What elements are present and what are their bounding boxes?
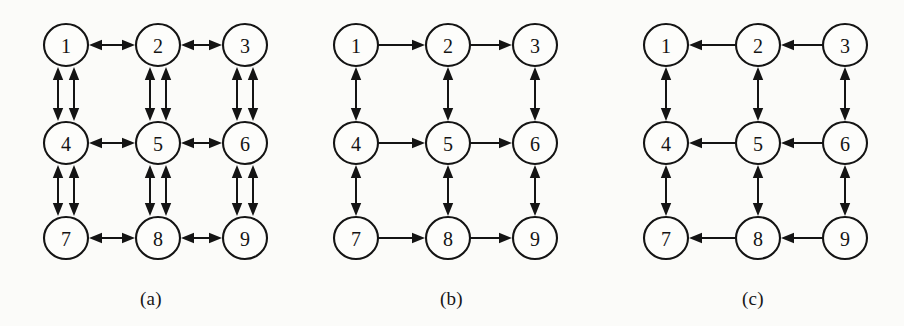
- node-label-2: 2: [443, 35, 453, 57]
- node-label-8: 8: [153, 228, 163, 250]
- node-6[interactable]: 6: [513, 122, 557, 164]
- edge-3-6: [232, 67, 258, 121]
- edge-5-6: [181, 138, 222, 148]
- edge-3-6: [530, 67, 540, 121]
- edge-8-9: [471, 233, 512, 243]
- node-label-3: 3: [840, 35, 850, 57]
- edge-6-9: [232, 165, 258, 216]
- panel-b: 123456789: [334, 24, 557, 259]
- node-label-1: 1: [661, 35, 671, 57]
- node-8[interactable]: 8: [136, 217, 180, 259]
- node-7[interactable]: 7: [334, 217, 378, 259]
- node-1[interactable]: 1: [334, 24, 378, 66]
- node-1[interactable]: 1: [44, 24, 88, 66]
- edge-8-7: [689, 233, 735, 243]
- node-4[interactable]: 4: [644, 122, 688, 164]
- edge-3-6: [840, 67, 850, 121]
- edge-2-1: [689, 40, 735, 50]
- node-5[interactable]: 5: [736, 122, 780, 164]
- node-label-1: 1: [351, 35, 361, 57]
- edge-7-8: [89, 233, 135, 243]
- caption-panel-c: (c): [0, 288, 904, 310]
- edge-2-5: [145, 67, 171, 121]
- panel-b-nodes: 123456789: [334, 24, 557, 259]
- edge-9-8: [781, 233, 822, 243]
- node-9[interactable]: 9: [223, 217, 267, 259]
- node-3[interactable]: 3: [223, 24, 267, 66]
- edge-6-9: [840, 165, 850, 216]
- node-1[interactable]: 1: [644, 24, 688, 66]
- edge-8-9: [181, 233, 222, 243]
- node-7[interactable]: 7: [644, 217, 688, 259]
- node-8[interactable]: 8: [426, 217, 470, 259]
- node-label-3: 3: [240, 35, 250, 57]
- edge-1-2: [379, 40, 425, 50]
- node-label-4: 4: [661, 133, 671, 155]
- node-label-4: 4: [351, 133, 361, 155]
- edge-5-8: [145, 165, 171, 216]
- edge-2-5: [443, 67, 453, 121]
- node-9[interactable]: 9: [513, 217, 557, 259]
- node-3[interactable]: 3: [513, 24, 557, 66]
- node-label-2: 2: [753, 35, 763, 57]
- panel-a-nodes: 123456789: [44, 24, 267, 259]
- node-label-6: 6: [840, 133, 850, 155]
- node-label-2: 2: [153, 35, 163, 57]
- node-label-9: 9: [840, 228, 850, 250]
- node-5[interactable]: 5: [136, 122, 180, 164]
- node-8[interactable]: 8: [736, 217, 780, 259]
- node-7[interactable]: 7: [44, 217, 88, 259]
- node-4[interactable]: 4: [44, 122, 88, 164]
- edge-6-5: [781, 138, 822, 148]
- edge-4-5: [379, 138, 425, 148]
- edge-2-3: [181, 40, 222, 50]
- edge-7-8: [379, 233, 425, 243]
- node-label-3: 3: [530, 35, 540, 57]
- panel-c: 123456789: [644, 24, 867, 259]
- node-label-4: 4: [61, 133, 71, 155]
- node-4[interactable]: 4: [334, 122, 378, 164]
- node-6[interactable]: 6: [823, 122, 867, 164]
- node-label-8: 8: [443, 228, 453, 250]
- edge-4-7: [53, 165, 79, 216]
- edge-5-6: [471, 138, 512, 148]
- figure-canvas: 123456789123456789123456789: [0, 0, 904, 326]
- node-9[interactable]: 9: [823, 217, 867, 259]
- node-label-6: 6: [530, 133, 540, 155]
- node-5[interactable]: 5: [426, 122, 470, 164]
- node-3[interactable]: 3: [823, 24, 867, 66]
- node-label-9: 9: [530, 228, 540, 250]
- node-2[interactable]: 2: [136, 24, 180, 66]
- node-label-5: 5: [153, 133, 163, 155]
- edge-1-4: [351, 67, 361, 121]
- node-2[interactable]: 2: [426, 24, 470, 66]
- panel-c-nodes: 123456789: [644, 24, 867, 259]
- edge-4-7: [351, 165, 361, 216]
- panel-a: 123456789: [44, 24, 267, 259]
- node-label-7: 7: [351, 228, 361, 250]
- node-label-7: 7: [61, 228, 71, 250]
- edge-1-2: [89, 40, 135, 50]
- edge-4-7: [661, 165, 671, 216]
- edge-2-3: [471, 40, 512, 50]
- edge-5-4: [689, 138, 735, 148]
- node-label-8: 8: [753, 228, 763, 250]
- node-2[interactable]: 2: [736, 24, 780, 66]
- edge-5-8: [443, 165, 453, 216]
- node-label-7: 7: [661, 228, 671, 250]
- node-label-5: 5: [443, 133, 453, 155]
- node-label-5: 5: [753, 133, 763, 155]
- edge-4-5: [89, 138, 135, 148]
- node-label-1: 1: [61, 35, 71, 57]
- node-6[interactable]: 6: [223, 122, 267, 164]
- edge-6-9: [530, 165, 540, 216]
- edge-3-2: [781, 40, 822, 50]
- edge-2-5: [753, 67, 763, 121]
- edge-1-4: [53, 67, 79, 121]
- figure-three-grid-digraphs: 123456789123456789123456789 (a) (b) (c): [0, 0, 904, 326]
- edge-1-4: [661, 67, 671, 121]
- node-label-6: 6: [240, 133, 250, 155]
- node-label-9: 9: [240, 228, 250, 250]
- edge-5-8: [753, 165, 763, 216]
